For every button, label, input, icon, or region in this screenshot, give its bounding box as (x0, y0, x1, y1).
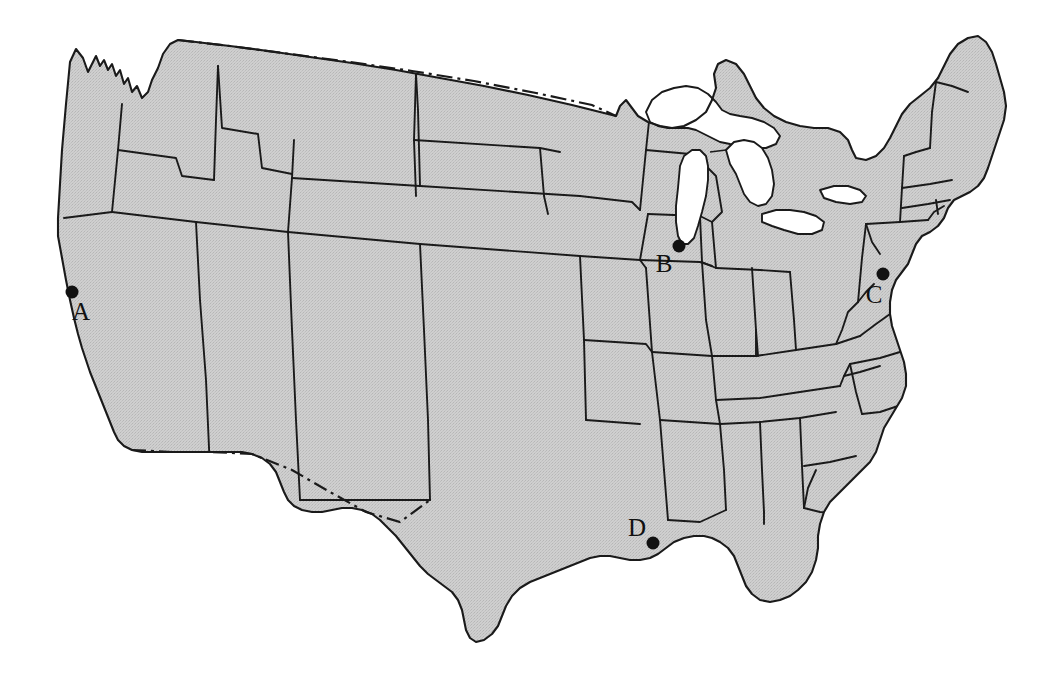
marker-label-d: D (628, 515, 646, 540)
marker-label-c: C (866, 282, 883, 307)
figure-us-map: A B C D (0, 0, 1048, 673)
marker-dot-d[interactable] (647, 537, 660, 550)
marker-dot-b[interactable] (673, 240, 686, 253)
marker-label-b: B (656, 251, 673, 276)
map-markers-layer: A B C D (0, 0, 1048, 673)
marker-dot-c[interactable] (877, 268, 890, 281)
marker-label-a: A (72, 299, 90, 324)
